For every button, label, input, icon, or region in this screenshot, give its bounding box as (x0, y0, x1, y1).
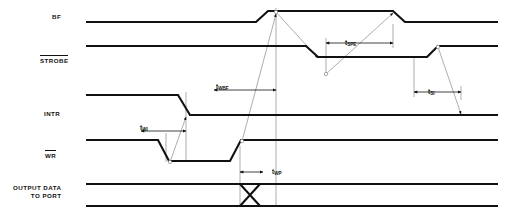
signal-label-intr: INTR (44, 110, 60, 118)
signal-label-text: STROBE (40, 55, 68, 64)
transition-marker-4 (436, 45, 439, 48)
reference-line-group (166, 8, 461, 206)
signal-label-bf: BF (52, 13, 61, 21)
timing-subscript: WBF (218, 86, 228, 91)
timing-diagram-canvas: BFSTROBEINTRWROUTPUT DATATO PORT tWItWBF… (0, 0, 508, 218)
waveform-data-cross (240, 184, 260, 206)
signal-label-text: TO PORT (31, 192, 62, 199)
timing-arrow-group (141, 43, 461, 172)
signal-label-text: INTR (44, 110, 60, 117)
waveform-bf (86, 11, 498, 22)
signal-waveform-group (86, 11, 498, 206)
signal-label-text: BF (52, 13, 61, 20)
t-wp-label: tWP (272, 168, 282, 175)
waveform-svg (0, 0, 508, 218)
timing-subscript: SPE (347, 42, 356, 47)
arrow-strobe-to-intr (438, 47, 461, 114)
t-wbf-label: tWBF (216, 83, 229, 90)
signal-label-data: OUTPUT DATATO PORT (13, 184, 61, 200)
t-si-label: tSI (428, 88, 434, 95)
transition-marker-3 (324, 72, 327, 75)
transition-marker-2 (240, 139, 243, 142)
signal-label-text: WR (45, 150, 56, 159)
waveform-intr (86, 95, 498, 115)
waveform-wr (86, 140, 498, 161)
t-wi-label: tWI (140, 124, 148, 131)
arrow-wr-to-intr (170, 117, 186, 162)
arrow-strobe-to-bf (326, 13, 393, 74)
timing-subscript: WP (274, 171, 281, 176)
timing-subscript: SI (430, 91, 434, 96)
transition-marker-0 (274, 10, 277, 13)
arrow-wr-to-bf (242, 14, 276, 141)
t-spe-label: tSPE (345, 39, 356, 46)
transition-marker-1 (168, 160, 171, 163)
timing-subscript: WI (142, 127, 148, 132)
signal-label-strobe: STROBE (40, 55, 68, 64)
signal-label-text: OUTPUT DATA (13, 184, 61, 191)
signal-label-wr: WR (45, 150, 56, 159)
